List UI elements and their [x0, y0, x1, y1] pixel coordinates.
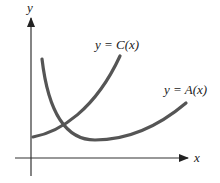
- y-axis-label: y: [27, 0, 33, 16]
- curve-c: [33, 56, 120, 137]
- curve-a-label: y = A(x): [164, 82, 207, 98]
- curve-c-label: y = C(x): [95, 37, 139, 53]
- x-axis-label: x: [194, 150, 200, 166]
